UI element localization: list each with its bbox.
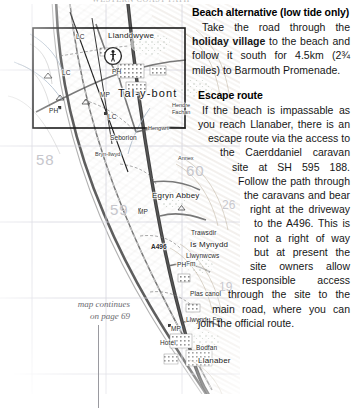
beach-alternative-body: Take the road through the holiday villag…: [192, 20, 350, 77]
map-label: Fachan: [172, 110, 190, 116]
map-label: PH: [49, 108, 58, 115]
text-wrap-spacer: [192, 301, 212, 315]
map-label: Hotel: [160, 340, 176, 347]
page-gutter-rule: [98, 325, 99, 408]
guidebook-page: WESTERN COAST PATH: [0, 0, 352, 408]
text-wrap-spacer: [192, 174, 232, 188]
map-continues-line1: map continues: [22, 298, 130, 310]
map-label: MP: [171, 326, 181, 333]
text-wrap-spacer: [192, 259, 250, 273]
text-wrap-spacer: [192, 216, 250, 230]
map-label: Hendre: [172, 103, 190, 109]
map-label: A496: [151, 244, 167, 251]
text-wrap-spacer: [192, 273, 242, 287]
map-label: 58: [36, 152, 55, 167]
escape-route-heading: Escape route: [198, 89, 350, 102]
text-wrap-spacer: [192, 188, 238, 202]
escape-route-section: Escape route If the beach is impassable …: [192, 89, 350, 330]
map-label: LC: [62, 70, 71, 77]
beach-body-bold: holiday village: [192, 35, 265, 47]
text-wrap-spacer: [192, 287, 228, 301]
text-wrap-spacer: [192, 231, 254, 245]
beach-alternative-heading: Beach alternative (low tide only): [192, 6, 350, 19]
map-label: 59: [110, 202, 129, 217]
escape-route-body: If the beach is impassable as you reach …: [192, 103, 350, 330]
map-label: Bryn-llwyd: [95, 152, 120, 158]
route-text-column: Beach alternative (low tide only) Take t…: [192, 6, 350, 387]
map-label: MP: [100, 92, 110, 99]
map-label: Hengwrt: [148, 126, 168, 132]
map-label: Tal-y-bont: [118, 88, 177, 99]
text-wrap-spacer: [192, 160, 220, 174]
map-label: Seborion: [110, 135, 137, 142]
map-label: MP: [138, 209, 148, 216]
map-continues-line2: on page 69: [22, 310, 130, 322]
text-wrap-spacer: [192, 202, 244, 216]
map-label: PH: [177, 262, 186, 269]
map-label: Llanddwywe: [108, 32, 154, 40]
map-label: LC: [76, 34, 85, 41]
map-label: PH: [112, 69, 121, 76]
text-wrap-spacer: [192, 131, 198, 145]
text-wrap-spacer: [192, 145, 208, 159]
text-wrap-spacer: [192, 245, 254, 259]
beach-body-part1: Take the road through the: [202, 21, 350, 33]
map-label: LC: [108, 114, 117, 121]
beach-alternative-section: Beach alternative (low tide only) Take t…: [192, 6, 350, 77]
map-continues-note: map continues on page 69: [22, 298, 130, 322]
